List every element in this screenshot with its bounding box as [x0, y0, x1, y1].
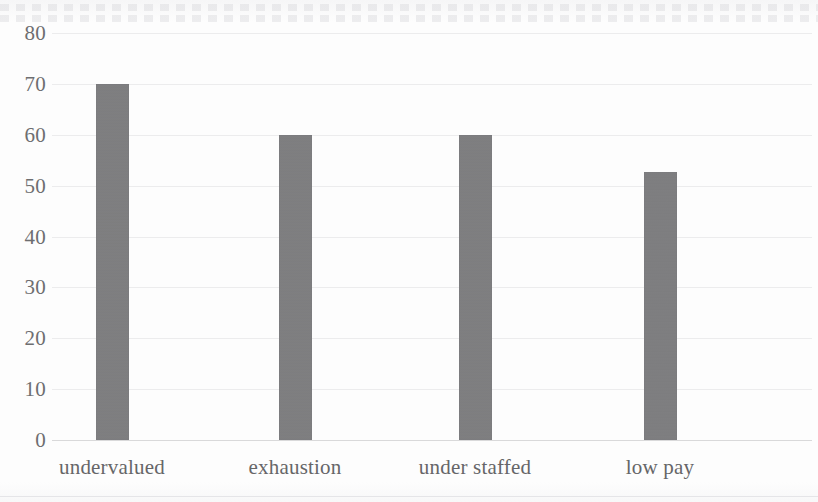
scan-artifact-line	[0, 496, 818, 497]
gridline	[52, 84, 812, 85]
x-axis-category-label: undervalued	[59, 455, 165, 480]
y-axis-tick-label: 80	[0, 21, 46, 46]
x-axis-category-label: low pay	[626, 455, 694, 480]
gridline	[52, 287, 812, 288]
gridline	[52, 389, 812, 390]
bar-exhaustion	[279, 135, 312, 440]
y-axis-tick-label: 60	[0, 122, 46, 147]
y-axis-tick-label: 50	[0, 173, 46, 198]
y-axis-tick-label: 30	[0, 275, 46, 300]
scan-artifact-row	[0, 4, 818, 11]
bar-under-staffed	[459, 135, 492, 440]
x-axis-category-label: under staffed	[419, 455, 531, 480]
gridline	[52, 135, 812, 136]
y-axis-tick-label: 20	[0, 326, 46, 351]
gridline	[52, 338, 812, 339]
y-axis: 80706050403020100	[0, 0, 46, 502]
scan-artifact-row	[0, 15, 818, 22]
gridline	[52, 237, 812, 238]
gridline	[52, 33, 812, 34]
bar-chart-figure: 80706050403020100 undervaluedexhaustionu…	[0, 0, 818, 502]
y-axis-tick-label: 0	[0, 428, 46, 453]
bar-low-pay	[644, 172, 677, 440]
x-axis: undervaluedexhaustionunder staffedlow pa…	[0, 455, 818, 495]
y-axis-tick-label: 40	[0, 224, 46, 249]
gridline	[52, 440, 812, 441]
y-axis-tick-label: 70	[0, 71, 46, 96]
plot-area	[52, 33, 812, 440]
bar-undervalued	[96, 84, 129, 440]
x-axis-category-label: exhaustion	[249, 455, 342, 480]
gridline	[52, 186, 812, 187]
y-axis-tick-label: 10	[0, 377, 46, 402]
